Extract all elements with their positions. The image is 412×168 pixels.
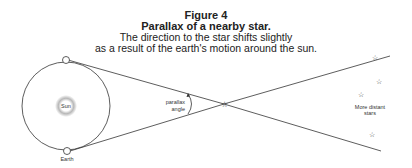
- distant-star-icon: ☆: [376, 78, 382, 85]
- earth-bottom-icon: [64, 148, 71, 155]
- earth-label: Earth: [60, 156, 73, 162]
- parallax-diagram: Sun Earth parallax angle ☆ ☆ ☆ ☆ ☆ More …: [0, 0, 412, 168]
- distant-stars-label-2: stars: [364, 110, 376, 116]
- parallax-angle-arc: [188, 94, 192, 114]
- parallax-angle-label-1: parallax: [166, 99, 186, 105]
- parallax-angle-label-2: angle: [172, 106, 185, 112]
- sun-label: Sun: [61, 103, 71, 109]
- earth-top-icon: [63, 57, 70, 64]
- distant-star-icon: ☆: [358, 91, 364, 98]
- nearby-star-icon: ☆: [221, 100, 228, 109]
- sight-line-from-bottom-earth: [70, 56, 390, 151]
- distant-star-icon: ☆: [372, 54, 378, 61]
- sight-line-top: [68, 56, 390, 60]
- distant-star-icon: ☆: [369, 131, 375, 138]
